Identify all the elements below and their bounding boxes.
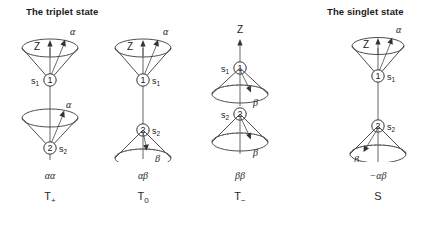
bottom-spin-label-beta: β xyxy=(252,147,258,158)
z-axis-arrowhead xyxy=(237,39,242,46)
electron-2-label: s2 xyxy=(387,122,396,133)
z-axis-label: Z xyxy=(363,39,369,50)
top-spin-label-alpha: α xyxy=(70,26,76,37)
spin-column-beta-beta: Z 1 s1 β 2 s2 β xyxy=(196,22,290,170)
spin-column-minus-alpha-beta: Z α 1 s1 2 s2 β xyxy=(334,22,428,162)
z-axis-label: Z xyxy=(237,24,243,35)
electron-1-label: s1 xyxy=(31,76,40,87)
bottom-spin-label-beta: β xyxy=(353,154,359,162)
top-spin-vector xyxy=(378,42,391,74)
z-axis-arrowhead xyxy=(375,38,380,45)
z-axis-arrowhead xyxy=(140,40,145,47)
top-spin-vector xyxy=(50,44,64,78)
caption-term-s: S xyxy=(348,190,408,205)
electron-1-number: 1 xyxy=(375,71,380,81)
caption-term-t-zero: T0 xyxy=(113,190,173,205)
electron-1-label: s1 xyxy=(152,76,161,87)
bottom-spin-label-alpha: α xyxy=(66,99,72,110)
z-axis-label: Z xyxy=(127,41,133,52)
top-cone-side-right xyxy=(240,68,268,94)
top-spin-vector xyxy=(143,44,157,78)
bottom-cone-side-right xyxy=(240,114,268,142)
spin-column-alpha-beta: Z α 1 s1 2 s2 β xyxy=(99,22,193,162)
z-axis-label: Z xyxy=(34,41,40,52)
z-axis-arrowhead xyxy=(47,40,52,47)
electron-1-number: 1 xyxy=(140,75,145,85)
spin-column-alpha-alpha: Z α 1 s1 α 2 s2 xyxy=(6,22,100,162)
caption-term-t-plus: T+ xyxy=(20,190,80,205)
electron-2-label: s2 xyxy=(221,110,230,121)
heading-triplet-state: The triplet state xyxy=(26,6,98,17)
bottom-cone-side-left xyxy=(115,130,143,158)
electron-2-number: 2 xyxy=(47,143,52,153)
bottom-spin-label-beta: β xyxy=(154,153,160,162)
caption-term-t-minus: T− xyxy=(210,190,270,205)
top-spin-label-alpha: α xyxy=(163,26,169,37)
electron-1-label: s1 xyxy=(387,72,396,83)
top-spin-label-beta: β xyxy=(252,97,258,108)
caption-spin-minus-alpha-beta: −αβ xyxy=(348,170,408,181)
electron-2-label: s2 xyxy=(152,126,161,137)
heading-singlet-state: The singlet state xyxy=(327,6,404,17)
electron-1-label: s1 xyxy=(221,64,230,75)
top-spin-label-alpha: α xyxy=(396,24,402,35)
caption-spin-alpha-beta: αβ xyxy=(113,170,173,181)
caption-spin-alpha-alpha: αα xyxy=(20,170,80,181)
electron-1-number: 1 xyxy=(47,75,52,85)
electron-2-label: s2 xyxy=(59,144,68,155)
caption-spin-beta-beta: ββ xyxy=(210,170,270,181)
spin-state-diagram-figure: The triplet state The singlet state Z α … xyxy=(0,0,434,228)
